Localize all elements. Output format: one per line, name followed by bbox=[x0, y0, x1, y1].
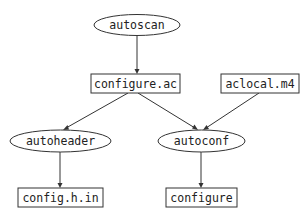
node-label: autoconf bbox=[174, 134, 229, 148]
edges bbox=[58, 36, 260, 188]
node-label: configure.ac bbox=[94, 77, 177, 91]
node-configure: configure bbox=[166, 188, 237, 207]
node-label: aclocal.m4 bbox=[225, 77, 294, 91]
arrowhead-icon bbox=[199, 183, 204, 188]
edge-configure-ac-to-autoheader bbox=[66, 93, 128, 128]
edge-aclocal-m4-to-autoconf bbox=[206, 93, 259, 128]
node-autoheader: autoheader bbox=[10, 130, 111, 152]
node-aclocal-m4: aclocal.m4 bbox=[221, 74, 299, 93]
edge-configure-ac-to-autoconf bbox=[138, 93, 195, 128]
autoconf-flow-diagram: autoscan configure.ac aclocal.m4 autohea… bbox=[0, 0, 306, 214]
node-autoconf: autoconf bbox=[158, 130, 245, 152]
node-label: autoheader bbox=[26, 134, 95, 148]
node-label: config.h.in bbox=[22, 191, 98, 205]
node-label: configure bbox=[170, 191, 232, 205]
arrowhead-icon bbox=[203, 125, 209, 130]
arrowhead-icon bbox=[192, 125, 198, 131]
node-config-h-in: config.h.in bbox=[18, 188, 103, 207]
arrowhead-icon bbox=[63, 125, 69, 130]
node-autoscan: autoscan bbox=[94, 15, 180, 36]
node-configure-ac: configure.ac bbox=[91, 74, 180, 93]
arrowhead-icon bbox=[135, 69, 140, 74]
node-label: autoscan bbox=[109, 18, 164, 32]
arrowhead-icon bbox=[58, 183, 63, 188]
